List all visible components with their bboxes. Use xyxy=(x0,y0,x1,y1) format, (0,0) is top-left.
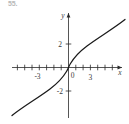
x-tick-label-neg3: -3 xyxy=(34,72,40,81)
graph-plot: -3 0 3 2 -2 x y xyxy=(0,0,129,124)
x-tick-label-3: 3 xyxy=(89,73,93,82)
x-tick-label-zero: 0 xyxy=(71,71,75,80)
figure-container: 55. xyxy=(0,0,129,124)
y-axis-label: y xyxy=(60,11,65,20)
y-tick-label-neg2: -2 xyxy=(57,87,63,96)
x-axis-label: x xyxy=(117,68,122,77)
y-tick-label-2: 2 xyxy=(58,40,62,49)
y-axis-arrow-icon xyxy=(67,13,71,18)
